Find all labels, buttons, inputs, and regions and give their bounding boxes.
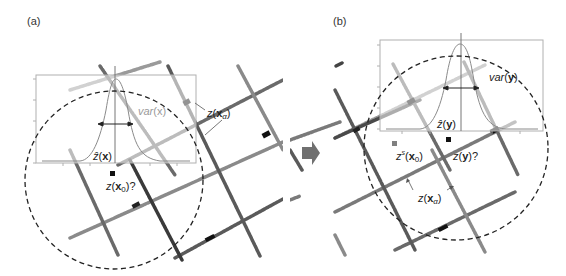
panel-a-label: (a): [27, 15, 40, 27]
sample-leader-a2: [205, 120, 222, 135]
panel-b-label: (b): [333, 15, 346, 27]
estimate-label-a: ẑ(x): [92, 150, 112, 162]
target-point-b: [446, 137, 451, 142]
variance-plot-b: var(y) ẑ(y): [377, 33, 543, 134]
variance-plot-a: var(x) ẑ(x): [33, 66, 196, 166]
simulated-label-b: zs(x0): [395, 149, 423, 164]
panel-b: (b): [290, 15, 548, 255]
panel-a: (a): [25, 15, 283, 269]
variance-label-b: var(y): [489, 71, 518, 83]
target-label-a: z(x0)?: [105, 180, 136, 194]
simulated-point-b: [392, 141, 397, 146]
sample-label-b: z(xα): [417, 192, 442, 206]
sample-label-a: z(xα): [206, 107, 231, 121]
target-label-b: z(y)?: [452, 150, 478, 162]
kriging-simulation-diagram: (a): [0, 0, 566, 276]
target-point-a: [110, 171, 115, 176]
estimate-label-b: ẑ(y): [436, 118, 456, 130]
right-arrow-icon: [302, 141, 320, 165]
variance-label-a: var(x): [138, 105, 166, 117]
